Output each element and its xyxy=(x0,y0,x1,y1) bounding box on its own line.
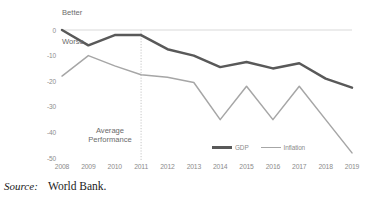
x-axis-tick-2019: 2019 xyxy=(339,163,365,171)
x-axis-tick-2010: 2010 xyxy=(102,163,128,171)
y-axis-tick-0: 0 xyxy=(30,27,56,34)
y-axis-tick-neg40: -40 xyxy=(30,129,56,136)
x-axis-tick-2012: 2012 xyxy=(154,163,180,171)
annotation-better: Better xyxy=(62,8,82,17)
annotation-average-performance: Average Performance xyxy=(75,126,145,145)
x-axis-tick-2017: 2017 xyxy=(286,163,312,171)
x-axis-tick-2015: 2015 xyxy=(234,163,260,171)
x-axis-tick-2011: 2011 xyxy=(128,163,154,171)
x-axis-tick-2009: 2009 xyxy=(75,163,101,171)
legend-label-gdp: GDP xyxy=(235,144,249,151)
legend-item-gdp[interactable]: GDP xyxy=(212,144,249,151)
y-axis-tick-neg30: -30 xyxy=(30,103,56,110)
y-axis-tick-neg20: -20 xyxy=(30,78,56,85)
series-line-gdp[interactable] xyxy=(62,30,352,88)
chart-plot-area[interactable]: 0-10-20-30-40-50 20082009201020112012201… xyxy=(0,0,372,176)
legend-swatch-inflation xyxy=(261,147,281,149)
source-value: World Bank. xyxy=(48,180,106,192)
x-axis-tick-2014: 2014 xyxy=(207,163,233,171)
x-axis-tick-2013: 2013 xyxy=(181,163,207,171)
legend-item-inflation[interactable]: Inflation xyxy=(261,144,305,151)
y-axis-tick-neg50: -50 xyxy=(30,155,56,162)
chart-legend[interactable]: GDP Inflation xyxy=(212,144,305,151)
legend-swatch-gdp xyxy=(212,146,232,148)
source-caption: Source: World Bank. xyxy=(4,180,106,192)
legend-label-inflation: Inflation xyxy=(284,144,305,151)
y-axis-tick-neg10: -10 xyxy=(30,52,56,59)
x-axis-tick-2016: 2016 xyxy=(260,163,286,171)
figure: 0-10-20-30-40-50 20082009201020112012201… xyxy=(0,0,372,200)
x-axis-tick-2008: 2008 xyxy=(49,163,75,171)
source-label: Source: xyxy=(4,180,48,192)
x-axis-tick-2018: 2018 xyxy=(313,163,339,171)
annotation-worse: Worse xyxy=(62,37,84,46)
